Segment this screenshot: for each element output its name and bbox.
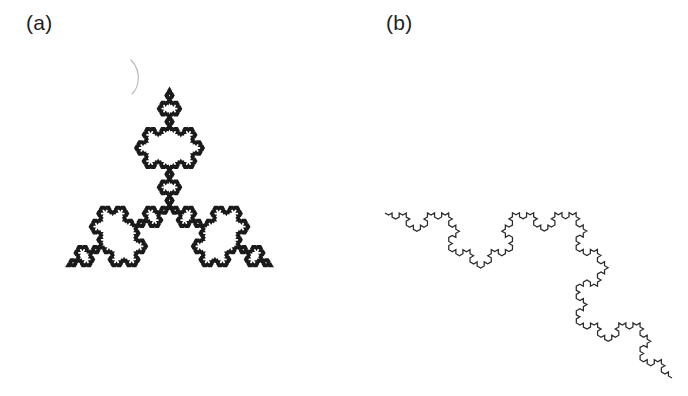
figure-root: (a) (b) xyxy=(0,0,688,396)
koch-snowflake-path xyxy=(67,89,271,266)
pencil-arc-smudge-icon xyxy=(131,60,138,94)
fractal-canvas xyxy=(0,0,688,396)
koch-curve-path xyxy=(385,213,672,378)
